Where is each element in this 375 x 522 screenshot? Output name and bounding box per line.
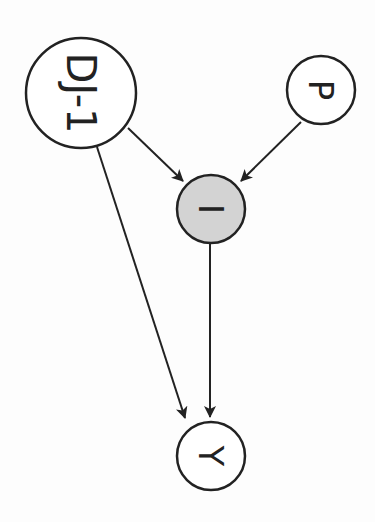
causal-diagram: DJ-1PIY xyxy=(0,0,375,522)
edge-dj-1-to-y xyxy=(97,147,185,418)
edge-p-to-i xyxy=(241,122,301,181)
node-dj-1: DJ-1 xyxy=(26,38,136,148)
diagram-canvas: DJ-1PIY xyxy=(0,0,375,522)
node-label-p: P xyxy=(301,80,341,101)
node-i: I xyxy=(177,175,245,243)
nodes-group: DJ-1PIY xyxy=(26,38,355,490)
node-p: P xyxy=(287,56,355,124)
node-label-y: Y xyxy=(191,445,231,467)
edges-group xyxy=(97,122,301,418)
node-y: Y xyxy=(177,422,245,490)
node-label-i: I xyxy=(191,204,231,214)
edge-dj-1-to-i xyxy=(128,128,183,181)
node-label-dj-1: DJ-1 xyxy=(58,52,104,133)
